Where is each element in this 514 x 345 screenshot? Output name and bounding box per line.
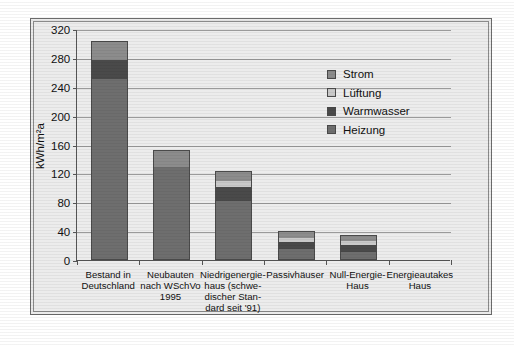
- chart-legend: StromLüftungWarmwasserHeizung: [327, 68, 410, 136]
- y-tick-mark: [73, 174, 77, 175]
- gridline: [77, 30, 451, 31]
- legend-swatch-icon: [327, 107, 336, 116]
- legend-item-strom: Strom: [327, 68, 410, 80]
- bar-segment-strom: [154, 151, 189, 167]
- y-axis-title: kWh/m²a: [34, 123, 46, 169]
- bar-segment-strom: [216, 172, 251, 181]
- y-tick-label: 240: [51, 82, 70, 94]
- y-tick-mark: [73, 203, 77, 204]
- x-tick-mark: [451, 260, 452, 265]
- y-tick-mark: [73, 117, 77, 118]
- x-tick-mark: [326, 260, 327, 265]
- legend-label: Heizung: [343, 124, 385, 136]
- y-tick-mark: [73, 88, 77, 89]
- x-tick-mark: [264, 260, 265, 265]
- x-tick-mark: [77, 260, 78, 265]
- legend-item-heizung: Heizung: [327, 124, 410, 136]
- legend-label: Lüftung: [343, 87, 381, 99]
- x-tick-mark: [389, 260, 390, 265]
- y-tick-label: 80: [57, 197, 70, 209]
- y-tick-label: 120: [51, 168, 70, 180]
- x-tick-mark: [202, 260, 203, 265]
- x-tick-mark: [139, 260, 140, 265]
- chart-screenshot: kWh/m²a 04080120160200240280320 Bestand …: [0, 0, 514, 345]
- legend-label: Strom: [343, 68, 374, 80]
- bar-3: [215, 171, 252, 260]
- bar-segment-heizung: [216, 201, 251, 259]
- gridline: [77, 59, 451, 60]
- gridline: [77, 203, 451, 204]
- gridline: [77, 146, 451, 147]
- y-tick-mark: [73, 146, 77, 147]
- x-category-label: EnergieautakesHaus: [381, 269, 459, 291]
- y-tick-mark: [73, 30, 77, 31]
- bar-2: [153, 150, 190, 260]
- legend-item-lüftung: Lüftung: [327, 87, 410, 99]
- y-tick-label: 0: [64, 255, 70, 267]
- bar-segment-warmwasser: [216, 187, 251, 201]
- y-tick-label: 280: [51, 53, 70, 65]
- bar-1: [91, 41, 128, 260]
- legend-swatch-icon: [327, 125, 336, 134]
- legend-swatch-icon: [327, 88, 336, 97]
- bar-segment-heizung: [154, 167, 189, 259]
- y-tick-label: 320: [51, 24, 70, 36]
- legend-swatch-icon: [327, 70, 336, 79]
- y-tick-label: 40: [57, 226, 70, 238]
- legend-item-warmwasser: Warmwasser: [327, 105, 410, 117]
- y-tick-label: 200: [51, 111, 70, 123]
- plot-area: 04080120160200240280320 Bestand inDeutsc…: [76, 30, 450, 261]
- gridline: [77, 174, 451, 175]
- y-tick-label: 160: [51, 140, 70, 152]
- y-tick-mark: [73, 59, 77, 60]
- bar-segment-heizung: [341, 252, 376, 259]
- legend-label: Warmwasser: [343, 105, 410, 117]
- gridline: [77, 232, 451, 233]
- bar-segment-warmwasser: [92, 60, 127, 78]
- bar-4: [278, 231, 315, 260]
- bar-segment-strom: [92, 42, 127, 60]
- bar-5: [340, 235, 377, 260]
- bar-segment-heizung: [92, 79, 127, 259]
- y-tick-mark: [73, 232, 77, 233]
- bar-segment-heizung: [279, 249, 314, 259]
